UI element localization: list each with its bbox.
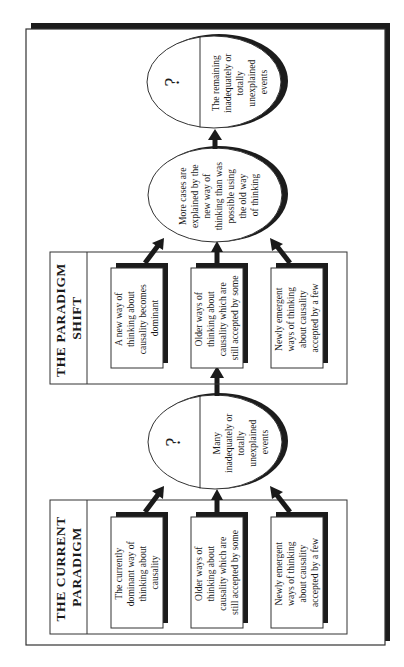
unexplained-events-ellipse-1: ? Many inadequately or totally unexplain…	[148, 393, 288, 489]
more-cases-explained-ellipse: More cases are explained by the new way …	[148, 146, 288, 242]
svg-text:Newly emergent ways of: Newly emergent ways of thinking about ca…	[273, 538, 320, 607]
current-paradigm-title: THE CURRENT PARADIGM	[53, 513, 84, 622]
svg-text:Newly emergent ways of: Newly emergent ways of thinking about ca…	[273, 283, 320, 352]
question-mark: ?	[162, 437, 184, 446]
current-older-ways-box: Older ways of thinking about causality w…	[191, 512, 248, 628]
current-newly-emergent-box: Newly emergent ways of thinking about ca…	[271, 512, 328, 628]
shift-new-dominant-box: A new way of thinking about causality be…	[111, 263, 168, 368]
shift-newly-emergent-box: Newly emergent ways of thinking about ca…	[271, 263, 328, 368]
current-dominant-box: The currently dominant way of thinking a…	[111, 512, 168, 628]
question-mark: ?	[161, 77, 183, 86]
shift-older-ways-box: Older ways of thinking about causality w…	[191, 263, 248, 368]
unexplained-events-ellipse-2: ? The remaining inadequately or totally …	[147, 34, 288, 128]
paradigm-shift-diagram: THE CURRENT PARADIGM The currently domin…	[0, 0, 404, 667]
